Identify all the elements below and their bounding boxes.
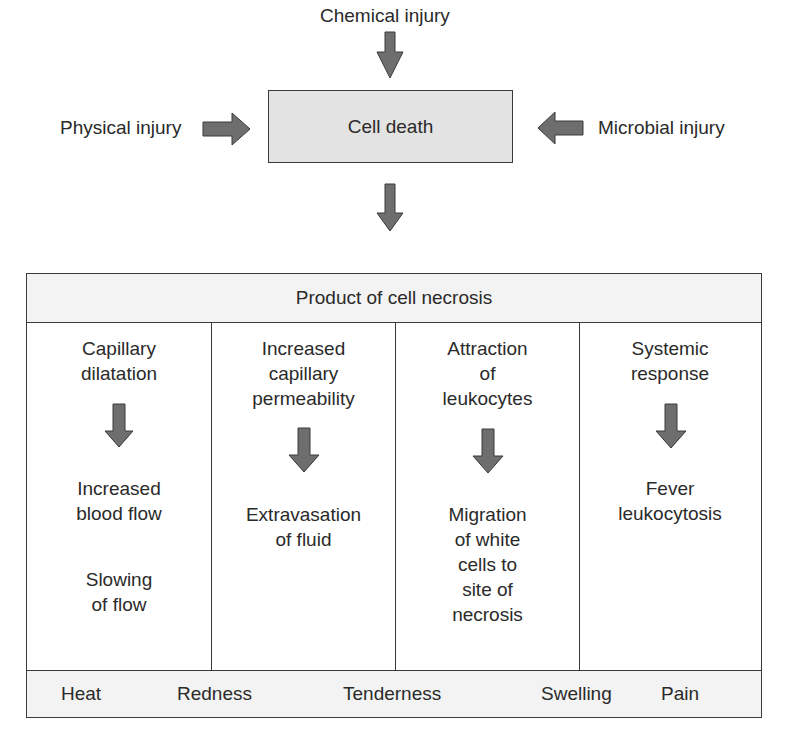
column-attraction-of-leukocytes: Attraction of leukocytes Migration of wh… <box>395 322 579 671</box>
sign-tenderness: Tenderness <box>343 683 441 705</box>
effect-label: Slowing of flow <box>27 567 211 617</box>
cause-label: Systemic response <box>580 336 760 386</box>
cause-label: Attraction of leukocytes <box>396 336 579 411</box>
column-capillary-dilatation: Capillary dilatation Increased blood flo… <box>27 322 211 671</box>
effect-label: Migration of white cells to site of necr… <box>396 502 579 627</box>
arrow-right-icon <box>203 113 251 145</box>
cause-label: Increased capillary permeability <box>212 336 395 411</box>
arrow-down-icon <box>289 428 319 473</box>
chemical-injury-label: Chemical injury <box>320 5 450 27</box>
arrow-down-icon <box>105 404 133 448</box>
cause-label: Capillary dilatation <box>27 336 211 386</box>
column-capillary-permeability: Increased capillary permeability Extrava… <box>211 322 395 671</box>
column-systemic-response: Systemic response Fever leukocytosis <box>579 322 760 671</box>
sign-swelling: Swelling <box>541 683 612 705</box>
cell-death-box: Cell death <box>268 90 513 163</box>
sign-pain: Pain <box>661 683 699 705</box>
sign-heat: Heat <box>61 683 101 705</box>
arrow-down-icon <box>377 184 403 232</box>
arrow-down-icon <box>656 404 686 449</box>
effect-label: Fever leukocytosis <box>580 476 760 526</box>
sign-redness: Redness <box>177 683 252 705</box>
effect-label: Increased blood flow <box>27 476 211 526</box>
arrow-down-icon <box>377 32 403 79</box>
microbial-injury-label: Microbial injury <box>598 117 725 139</box>
physical-injury-label: Physical injury <box>60 117 181 139</box>
arrow-down-icon <box>473 429 503 474</box>
necrosis-table: Product of cell necrosis Capillary dilat… <box>26 273 762 718</box>
arrow-left-icon <box>538 112 584 144</box>
signs-footer: Heat Redness Tenderness Swelling Pain <box>27 670 761 717</box>
effect-label: Extravasation of fluid <box>212 502 395 552</box>
table-header: Product of cell necrosis <box>27 274 761 323</box>
